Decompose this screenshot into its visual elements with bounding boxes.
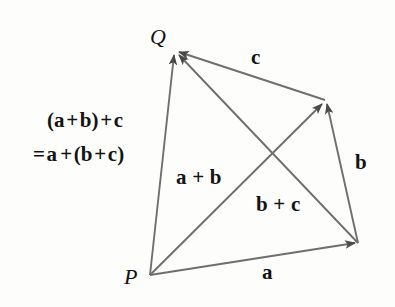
- equation2-term-c: c: [108, 142, 117, 166]
- equation2-plus-1: +: [59, 142, 74, 166]
- equation1-term-c: c: [114, 108, 123, 132]
- vector-a-plus-b-line: [150, 104, 322, 275]
- point-label-q: Q: [150, 26, 166, 48]
- equation2-term-a: a: [45, 142, 59, 166]
- equation-line-1: (a+b)+c: [47, 110, 123, 131]
- vector-resultant-line: [150, 55, 174, 275]
- equation1-term-a: a: [54, 108, 65, 132]
- vector-label-a: a: [262, 262, 273, 283]
- equation2-open-paren: (: [74, 142, 81, 166]
- vector-b-line: [327, 104, 358, 243]
- vector-label-a-plus-b: a + b: [176, 167, 222, 188]
- equation2-equals: =: [33, 142, 45, 166]
- equation2-plus-2: +: [93, 142, 108, 166]
- vector-a-line: [150, 243, 355, 275]
- vector-label-b: b: [355, 152, 367, 173]
- vector-label-b-plus-c: b + c: [256, 194, 300, 215]
- vector-label-c: c: [251, 47, 261, 68]
- vector-addition-figure: Q P a b c a + b b + c (a+b)+c =a+(b+c): [0, 0, 395, 307]
- equation2-term-b: b: [81, 142, 93, 166]
- equation2-close-paren: ): [117, 142, 124, 166]
- equation1-plus-1: +: [65, 108, 80, 132]
- equation1-term-b: b: [80, 108, 92, 132]
- point-label-p: P: [124, 266, 137, 288]
- equation1-plus-2: +: [99, 108, 114, 132]
- equation1-close-paren: ): [92, 108, 99, 132]
- equation-line-2: =a+(b+c): [33, 144, 124, 165]
